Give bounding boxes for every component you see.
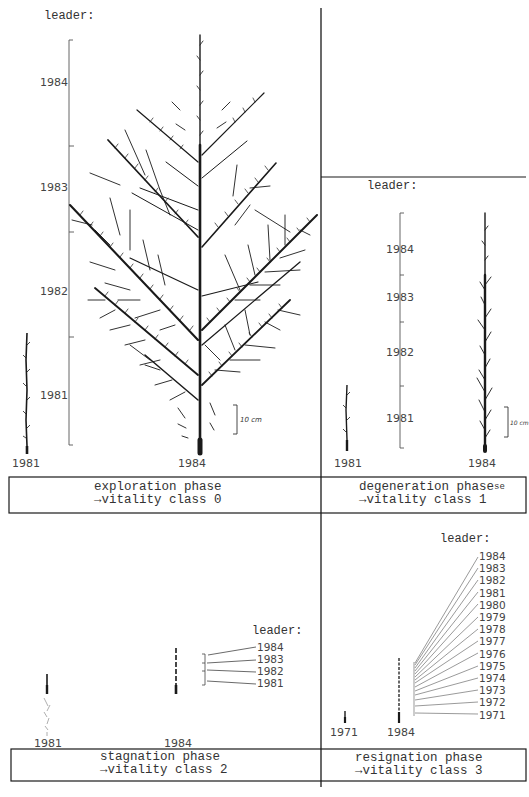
- exploration-scale-label: 10 cm: [240, 416, 262, 424]
- degeneration-scale-label: 10 cm: [510, 419, 529, 426]
- stagnation-leader-year: 1981: [257, 678, 284, 690]
- stagnation-leader-year: 1984: [257, 642, 284, 654]
- degeneration-tree-1984: [477, 213, 492, 451]
- degeneration-leader-year: 1983: [386, 292, 414, 304]
- stagnation-tree-label: 1981: [34, 738, 62, 750]
- stagnation-leader-bracket: [202, 647, 256, 685]
- resignation-leader-year: 1983: [479, 562, 506, 574]
- exploration-leader-year: 1981: [40, 390, 68, 402]
- resignation-caption: resignation phase →vitality class 3: [355, 752, 483, 778]
- stagnation-caption-line2: →vitality class 2: [100, 764, 228, 777]
- degeneration-tree-1981: [343, 385, 350, 451]
- degeneration-tree-label: 1984: [468, 458, 496, 470]
- stagnation-caption: stagnation phase →vitality class 2: [100, 751, 228, 777]
- stagnation-leader-year: 1983: [257, 654, 284, 666]
- degeneration-caption-suffix: se: [494, 482, 505, 492]
- exploration-leader-year: 1982: [40, 286, 68, 298]
- resignation-leader-year: 1975: [479, 660, 506, 672]
- exploration-caption: exploration phase →vitality class 0: [94, 481, 222, 507]
- exploration-leader-label: leader:: [44, 10, 94, 22]
- resignation-leader-year: 1971: [479, 709, 506, 721]
- exploration-caption-line2: →vitality class 0: [94, 494, 222, 507]
- stagnation-leader-year: 1982: [257, 666, 284, 678]
- degeneration-leader-year: 1982: [386, 347, 414, 359]
- resignation-leader-year: 1977: [479, 635, 506, 647]
- resignation-leader-label: leader:: [440, 533, 490, 545]
- resignation-leader-year: 1973: [479, 684, 506, 696]
- exploration-tree-1981: [23, 333, 30, 454]
- resignation-leader-year: 1978: [479, 623, 506, 635]
- resignation-tree-label: 1971: [330, 727, 358, 739]
- resignation-leader-year: 1981: [479, 587, 506, 599]
- resignation-leader-year: 1982: [479, 574, 506, 586]
- resignation-leader-year: 1979: [479, 611, 506, 623]
- resignation-leader-year: 1976: [479, 648, 506, 660]
- resignation-caption-line2: →vitality class 3: [355, 765, 483, 778]
- exploration-tree-label: 1984: [178, 458, 206, 470]
- resignation-leader-years: 1984 1983 1982 1981 1980 1979 1978 1977 …: [479, 550, 506, 721]
- exploration-leader-year: 1984: [40, 77, 68, 89]
- resignation-leader-year: 1972: [479, 696, 506, 708]
- exploration-leader-year: 1983: [40, 182, 68, 194]
- degeneration-caption: degeneration phasese →vitality class 1: [359, 481, 505, 507]
- resignation-leader-year: 1984: [479, 550, 506, 562]
- exploration-tree-label: 1981: [12, 458, 40, 470]
- stagnation-leader-label: leader:: [252, 625, 302, 637]
- degeneration-leader-year: 1981: [386, 413, 414, 425]
- stagnation-tree-1981: [44, 674, 50, 736]
- degeneration-tree-label: 1981: [334, 458, 362, 470]
- resignation-leader-year: 1980: [479, 599, 506, 611]
- degeneration-caption-line1: degeneration phase: [359, 480, 494, 494]
- exploration-tree-1984: [70, 35, 317, 453]
- degeneration-leader-year: 1984: [386, 244, 414, 256]
- stagnation-tree-label: 1984: [164, 738, 192, 750]
- resignation-leader-year: 1974: [479, 672, 506, 684]
- degeneration-leader-label: leader:: [367, 180, 417, 192]
- resignation-leader-lines: [414, 557, 478, 716]
- exploration-leader-bracket: [69, 40, 74, 445]
- degeneration-caption-line2: →vitality class 1: [359, 494, 505, 507]
- resignation-tree-label: 1984: [387, 727, 415, 739]
- degeneration-scale-bar: [504, 407, 508, 437]
- exploration-scale-bar: [233, 405, 237, 434]
